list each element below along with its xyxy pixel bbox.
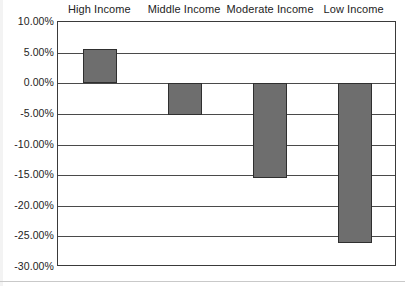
category-label: Moderate Income [227, 2, 312, 16]
y-axis-tick-label: 5.00% [1, 46, 54, 58]
y-axis-tick-label: -25.00% [1, 229, 54, 241]
bar [253, 83, 287, 178]
y-axis-tick-label: 0.00% [1, 76, 54, 88]
y-axis-tick-label: -15.00% [1, 168, 54, 180]
bar [338, 83, 372, 243]
category-label: Low Income [311, 2, 396, 16]
y-axis-tick-label: -10.00% [1, 138, 54, 150]
plot-area [57, 21, 396, 266]
y-axis-tick-label: -30.00% [1, 260, 54, 272]
category-label: Middle Income [142, 2, 227, 16]
y-axis-tick-labels: 10.00%5.00%0.00%-5.00%-10.00%-15.00%-20.… [0, 0, 54, 286]
bar [83, 49, 117, 83]
category-label: High Income [57, 2, 142, 16]
y-axis-tick-label: -20.00% [1, 199, 54, 211]
y-axis-tick-label: -5.00% [1, 107, 54, 119]
bar [168, 83, 202, 115]
bar-chart: High IncomeMiddle IncomeModerate IncomeL… [0, 0, 405, 286]
y-axis-tick-label: 10.00% [1, 15, 54, 27]
scan-artifact-bottom-rule [0, 281, 405, 282]
